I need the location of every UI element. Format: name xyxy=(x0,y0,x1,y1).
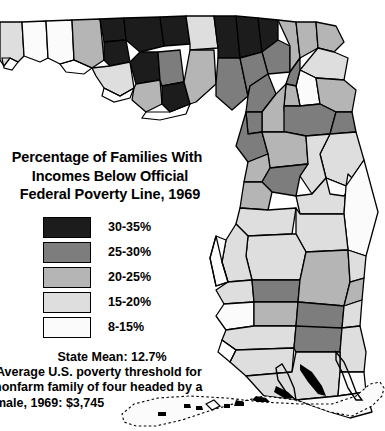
title-line-2: Incomes Below Official xyxy=(0,167,220,186)
county-nassau xyxy=(316,22,344,52)
county-okaloosa xyxy=(46,20,74,64)
county-palm-beach xyxy=(340,326,366,372)
county-polk xyxy=(246,234,306,280)
legend-swatch-30-35 xyxy=(43,217,91,238)
legend-and-caption-block: Percentage of Families With Incomes Belo… xyxy=(0,148,220,411)
county-desoto xyxy=(254,302,298,326)
legend-label-25-30: 25-30% xyxy=(108,245,151,259)
county-liberty xyxy=(158,50,184,86)
county-bay xyxy=(92,62,134,96)
county-putnam xyxy=(284,104,336,136)
legend-item: 25-30% xyxy=(0,240,220,265)
key-island-shape-9 xyxy=(224,404,230,408)
county-hardee xyxy=(252,280,300,302)
footnote-line-2: nonfarm family of four headed by a xyxy=(0,380,220,396)
legend-label-20-25: 20-25% xyxy=(108,270,151,284)
legend-item: 15-20% xyxy=(0,290,220,315)
legend-label-8-15: 8-15% xyxy=(108,320,144,334)
poverty-map-figure: Percentage of Families With Incomes Belo… xyxy=(0,0,385,431)
county-sarasota xyxy=(216,302,254,330)
legend-item: 8-15% xyxy=(0,315,220,340)
county-calhoun xyxy=(130,52,160,84)
county-osceola xyxy=(296,208,348,252)
panhandle-counties xyxy=(0,16,290,112)
county-washington xyxy=(104,40,130,66)
legend-label-15-20: 15-20% xyxy=(108,295,151,309)
legend-swatch-20-25 xyxy=(43,267,91,288)
key-island-shape-8 xyxy=(158,412,166,416)
legend-label-30-35: 30-35% xyxy=(108,220,151,234)
footnote-line-3: male, 1969: $3,745 xyxy=(0,396,220,412)
county-santa-rosa xyxy=(22,21,48,62)
county-gadsden xyxy=(160,16,190,46)
legend: 30-35% 25-30% 20-25% 15-20% 8-15% xyxy=(0,215,220,340)
county-jackson xyxy=(124,17,164,52)
title-line-1: Percentage of Families With xyxy=(0,148,220,167)
county-leon xyxy=(186,16,218,50)
county-lee xyxy=(230,348,294,376)
county-charlotte xyxy=(222,326,296,350)
legend-item: 30-35% xyxy=(0,215,220,240)
county-holmes xyxy=(100,18,126,42)
legend-swatch-8-15 xyxy=(43,317,91,338)
legend-swatch-15-20 xyxy=(43,292,91,313)
county-wakulla xyxy=(184,50,216,104)
legend-swatch-25-30 xyxy=(43,242,91,263)
county-pasco xyxy=(236,208,296,236)
title-line-3: Federal Poverty Line, 1969 xyxy=(0,185,220,204)
footnote-line-1: Average U.S. poverty threshold for xyxy=(0,365,220,381)
county-highlands xyxy=(298,250,350,306)
footnote: Average U.S. poverty threshold for nonfa… xyxy=(0,365,220,412)
county-gilchrist xyxy=(246,112,262,134)
map-title: Percentage of Families With Incomes Belo… xyxy=(0,148,220,204)
county-indian-river xyxy=(348,250,366,282)
county-gulf xyxy=(132,80,162,112)
legend-item: 20-25% xyxy=(0,265,220,290)
state-mean-label: State Mean: 12.7% xyxy=(4,350,220,364)
county-hendry xyxy=(294,326,342,352)
